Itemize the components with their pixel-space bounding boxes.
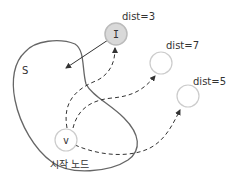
node-I-dist: dist=3 — [122, 11, 155, 22]
edge-v-to-n5 — [75, 110, 180, 154]
set-s-label: S — [22, 65, 28, 76]
node-I-label: I — [113, 29, 119, 40]
start-node-label: 시작 노드 — [50, 159, 89, 170]
edge-v-to-I — [66, 48, 115, 128]
node-v-label: v — [63, 135, 69, 146]
edge-I-to-S — [66, 40, 108, 68]
node-dist7-label: dist=7 — [166, 40, 199, 51]
node-dist5 — [177, 85, 199, 107]
set-s-region — [13, 41, 137, 171]
diagram-canvas: S I dist=3 dist=7 dist=5 v 시작 노드 — [0, 0, 233, 187]
node-dist7 — [150, 52, 172, 74]
node-dist5-label: dist=5 — [193, 76, 226, 87]
